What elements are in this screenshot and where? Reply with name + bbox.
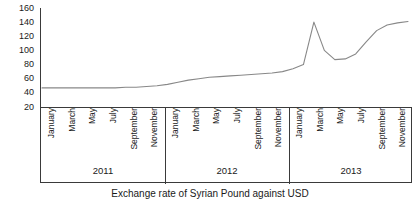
month-label: September [378, 108, 387, 152]
exchange-rate-line [42, 21, 408, 87]
month-label: January [47, 108, 56, 140]
line-chart-svg [40, 8, 412, 107]
y-tick-label: 100 [19, 46, 34, 55]
year-label: 2012 [165, 166, 289, 176]
year-label: 2011 [41, 166, 165, 176]
month-labels-row: JanuaryMarchMayJulySeptemberNovember [41, 108, 165, 164]
y-tick-label: 20 [24, 103, 34, 112]
month-labels-row: JanuaryMarchMayJulySeptemberNovember [289, 108, 413, 164]
y-axis-tick-labels: 16014012010080604020 [8, 0, 34, 219]
month-label: November [274, 108, 283, 149]
month-label: September [254, 108, 263, 152]
month-label: November [398, 108, 407, 149]
y-tick-label: 120 [19, 32, 34, 41]
plot-area [40, 8, 412, 107]
month-label: May [212, 108, 221, 126]
month-label: July [109, 108, 118, 125]
chart-figure: 16014012010080604020 JanuaryMarchMayJuly… [0, 0, 420, 219]
y-tick-label: 60 [24, 74, 34, 83]
year-separator [289, 108, 290, 184]
month-label: September [130, 108, 139, 152]
month-label: November [150, 108, 159, 149]
y-tick-label: 40 [24, 88, 34, 97]
month-label: May [336, 108, 345, 126]
month-labels-row: JanuaryMarchMayJulySeptemberNovember [165, 108, 289, 164]
chart-caption: Exchange rate of Syrian Pound against US… [0, 188, 420, 200]
month-label: July [233, 108, 242, 125]
y-tick-label: 140 [19, 18, 34, 27]
month-label: March [68, 108, 77, 134]
year-group-2012: JanuaryMarchMayJulySeptemberNovember2012 [165, 108, 289, 184]
year-group-2011: JanuaryMarchMayJulySeptemberNovember2011 [41, 108, 165, 184]
month-label: July [357, 108, 366, 125]
month-label: January [171, 108, 180, 140]
year-label: 2013 [289, 166, 413, 176]
month-label: March [316, 108, 325, 134]
year-separator [165, 108, 166, 184]
year-group-2013: JanuaryMarchMayJulySeptemberNovember2013 [289, 108, 413, 184]
month-label: March [192, 108, 201, 134]
y-tick-label: 80 [24, 60, 34, 69]
month-label: May [88, 108, 97, 126]
x-axis-label-band: JanuaryMarchMayJulySeptemberNovember2011… [40, 107, 412, 183]
month-label: January [295, 108, 304, 140]
y-tick-label: 160 [19, 4, 34, 13]
